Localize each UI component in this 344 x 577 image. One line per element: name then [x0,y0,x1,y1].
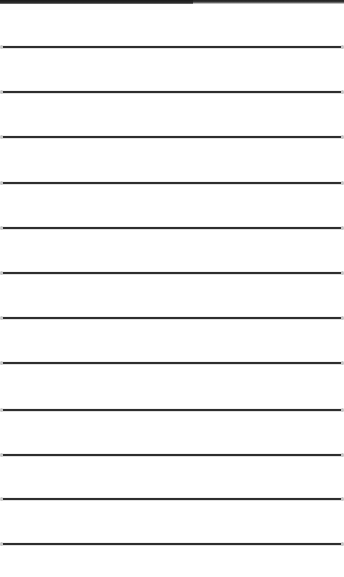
ruled-page [0,0,344,577]
ruled-line [2,227,342,229]
ruled-line [2,409,342,411]
ruled-line [2,317,342,319]
ruled-line [2,454,342,456]
ruled-line [2,272,342,274]
top-strip-segment-2 [268,0,344,4]
ruled-line [2,136,342,138]
ruled-line [2,182,342,184]
ruled-line [2,498,342,500]
ruled-line [2,46,342,48]
ruled-line [2,543,342,545]
ruled-line [2,362,342,364]
top-strip-segment-1 [193,0,268,4]
ruled-line [2,91,342,93]
top-dark-strip [0,0,344,4]
